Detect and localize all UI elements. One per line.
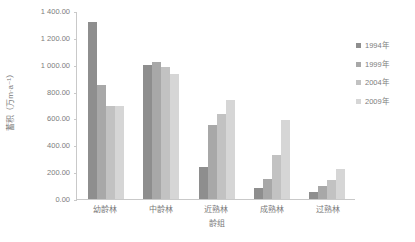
x-axis-tick-label: 中龄林 xyxy=(133,203,189,214)
legend-item[interactable]: 1994年 xyxy=(356,42,389,50)
x-axis-tick-label: 近熟林 xyxy=(189,203,245,214)
bar xyxy=(208,125,217,199)
legend-label: 1994年 xyxy=(365,42,389,50)
x-axis-title: 龄组 xyxy=(77,217,356,228)
x-axis-tick-label: 过熟林 xyxy=(300,203,356,214)
bar xyxy=(336,169,345,199)
bar xyxy=(226,100,235,199)
bar-group xyxy=(300,12,355,199)
y-axis-tick-labels: 0.00200.00400.00600.00800.001 000.001 20… xyxy=(14,0,74,210)
bar xyxy=(217,114,226,199)
bar-group xyxy=(189,12,244,199)
y-axis-tick-mark xyxy=(74,12,77,13)
y-axis-tick-label: 1 200.00 xyxy=(41,35,70,43)
bar xyxy=(115,106,124,199)
bar xyxy=(263,179,272,199)
x-axis-tick-label: 成熟林 xyxy=(244,203,300,214)
bar xyxy=(318,186,327,199)
legend: 1994年1999年2004年2009年 xyxy=(356,42,389,105)
bar xyxy=(281,120,290,199)
y-axis-title-text: 蓄积（万m·a⁻¹） xyxy=(4,70,15,131)
plot-area xyxy=(76,12,355,200)
bar xyxy=(161,67,170,199)
bar xyxy=(143,65,152,199)
bar-chart: 蓄积（万m·a⁻¹） 0.00200.00400.00600.00800.001… xyxy=(0,0,415,242)
y-axis-tick-label: 200.00 xyxy=(47,169,70,177)
y-axis-tick-mark xyxy=(74,93,77,94)
legend-item[interactable]: 1999年 xyxy=(356,61,389,69)
y-axis-tick-mark xyxy=(74,39,77,40)
y-axis-tick-label: 400.00 xyxy=(47,143,70,151)
y-axis-tick-label: 600.00 xyxy=(47,116,70,124)
legend-swatch-icon xyxy=(356,62,361,67)
bar xyxy=(152,62,161,199)
bar xyxy=(106,106,115,199)
x-axis-tick-labels: 幼龄林中龄林近熟林成熟林过熟林 xyxy=(77,203,356,214)
x-axis-tick-label: 幼龄林 xyxy=(77,203,133,214)
y-axis-tick-label: 1 000.00 xyxy=(41,62,70,70)
y-axis-tick-mark xyxy=(74,66,77,67)
legend-swatch-icon xyxy=(356,43,361,48)
bar-groups xyxy=(78,12,355,199)
legend-swatch-icon xyxy=(356,99,361,104)
bar-group xyxy=(244,12,299,199)
bar xyxy=(170,74,179,199)
legend-label: 2004年 xyxy=(365,79,389,87)
bar-group xyxy=(133,12,188,199)
bar xyxy=(88,22,97,199)
y-axis-tick-mark xyxy=(74,173,77,174)
legend-label: 1999年 xyxy=(365,61,389,69)
bar-group xyxy=(78,12,133,199)
bar xyxy=(199,167,208,199)
bar xyxy=(309,192,318,199)
legend-item[interactable]: 2004年 xyxy=(356,79,389,87)
bar xyxy=(327,180,336,199)
bar xyxy=(272,155,281,199)
y-axis-tick-label: 800.00 xyxy=(47,89,70,97)
y-axis-tick-label: 0.00 xyxy=(55,196,70,204)
legend-swatch-icon xyxy=(356,80,361,85)
bar xyxy=(97,85,106,199)
bar xyxy=(254,188,263,199)
y-axis-tick-mark xyxy=(74,119,77,120)
y-axis-tick-label: 1 400.00 xyxy=(41,8,70,16)
legend-item[interactable]: 2009年 xyxy=(356,98,389,106)
y-axis-tick-mark xyxy=(74,146,77,147)
legend-label: 2009年 xyxy=(365,98,389,106)
y-axis-tick-mark xyxy=(74,200,77,201)
